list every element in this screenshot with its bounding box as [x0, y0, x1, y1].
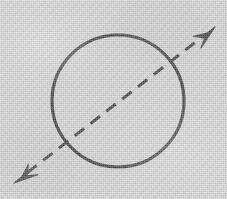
arrowhead-upper-right-icon [193, 27, 215, 48]
figure-svg: Circle with double-headed dashed diamete… [0, 0, 227, 199]
circle-outline [52, 35, 184, 167]
figure-canvas: Circle with double-headed dashed diamete… [0, 0, 227, 199]
